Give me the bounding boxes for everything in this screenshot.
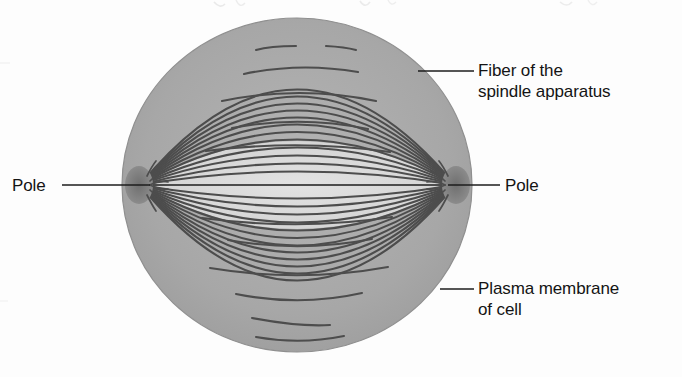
label-fiber-of-spindle-apparatus: Fiber of the spindle apparatus	[478, 60, 611, 102]
label-plasma-membrane-of-cell: Plasma membrane of cell	[478, 278, 619, 320]
label-pole-right: Pole	[505, 175, 539, 196]
diagram-canvas	[0, 0, 682, 377]
spindle-apparatus-figure: Fiber of the spindle apparatus Plasma me…	[0, 0, 682, 377]
label-pole-left: Pole	[12, 175, 46, 196]
